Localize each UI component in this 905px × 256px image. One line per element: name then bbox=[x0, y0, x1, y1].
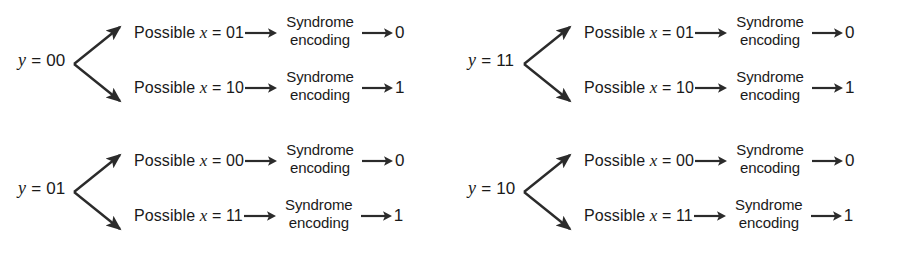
candidate-variable: x bbox=[200, 23, 208, 42]
source-value: = 11 bbox=[481, 51, 514, 70]
candidate-value: = 11 bbox=[662, 207, 693, 224]
source-value: = 01 bbox=[31, 179, 65, 198]
syndrome-encoding-stage: Syndrome encoding bbox=[728, 71, 812, 105]
candidate-value: = 10 bbox=[212, 79, 244, 96]
source-label-y-11: y = 11 bbox=[468, 50, 514, 71]
arrow-to-stage-icon bbox=[693, 209, 727, 223]
stage-label-line2: encoding bbox=[728, 160, 812, 175]
branch-fork-icon bbox=[70, 144, 132, 240]
source-value: = 10 bbox=[481, 179, 515, 198]
path-row-y01-upper: Possible x = 00 Syndrome encoding 0 bbox=[134, 144, 405, 178]
syndrome-encoding-stage: Syndrome encoding bbox=[728, 16, 812, 50]
output-digit: 1 bbox=[393, 206, 403, 226]
path-row-y00-lower: Possible x = 10 Syndrome encoding 1 bbox=[134, 71, 405, 105]
stage-label-line2: encoding bbox=[278, 32, 362, 47]
candidate-label: Possible x = 10 bbox=[584, 78, 694, 98]
source-label-y-00: y = 00 bbox=[18, 50, 66, 71]
stage-label-line2: encoding bbox=[727, 215, 811, 230]
candidate-variable: x bbox=[650, 78, 658, 97]
syndrome-encoding-stage: Syndrome encoding bbox=[278, 144, 362, 178]
arrow-to-output-icon bbox=[362, 26, 394, 40]
path-row-y00-upper: Possible x = 01 Syndrome encoding 0 bbox=[134, 16, 405, 50]
source-variable: y bbox=[18, 178, 26, 198]
decision-block-y-10: y = 10 Possible x = 00 Syndrome encoding… bbox=[452, 128, 897, 256]
output-digit: 1 bbox=[843, 206, 853, 226]
path-row-y10-upper: Possible x = 00 Syndrome encoding 0 bbox=[584, 144, 855, 178]
arrow-to-output-icon bbox=[811, 209, 843, 223]
stage-label-line1: Syndrome bbox=[278, 142, 362, 157]
path-row-y11-upper: Possible x = 01 Syndrome encoding 0 bbox=[584, 16, 855, 50]
arrow-to-stage-icon bbox=[243, 209, 277, 223]
syndrome-decoding-diagram: y = 00 Possible x = 01 Syndrome encoding bbox=[0, 0, 905, 256]
path-row-y11-lower: Possible x = 10 Syndrome encoding 1 bbox=[584, 71, 855, 105]
stage-label-line2: encoding bbox=[278, 87, 362, 102]
candidate-value: = 01 bbox=[212, 24, 244, 41]
decision-block-y-00: y = 00 Possible x = 01 Syndrome encoding bbox=[2, 0, 447, 128]
branch-fork-icon bbox=[520, 16, 582, 112]
candidate-value: = 10 bbox=[662, 79, 694, 96]
source-label-y-01: y = 01 bbox=[18, 178, 66, 199]
candidate-label: Possible x = 11 bbox=[584, 206, 693, 226]
candidate-label: Possible x = 00 bbox=[134, 151, 244, 171]
source-variable: y bbox=[18, 50, 26, 70]
stage-label-line1: Syndrome bbox=[277, 197, 361, 212]
candidate-variable: x bbox=[650, 23, 658, 42]
arrow-to-output-icon bbox=[362, 81, 394, 95]
candidate-label: Possible x = 00 bbox=[584, 151, 694, 171]
candidate-variable: x bbox=[200, 151, 208, 170]
arrow-to-stage-icon bbox=[694, 26, 728, 40]
path-row-y01-lower: Possible x = 11 Syndrome encoding 1 bbox=[134, 199, 403, 233]
syndrome-encoding-stage: Syndrome encoding bbox=[727, 199, 811, 233]
source-variable: y bbox=[468, 50, 476, 70]
arrow-to-output-icon bbox=[361, 209, 393, 223]
arrow-to-stage-icon bbox=[694, 81, 728, 95]
syndrome-encoding-stage: Syndrome encoding bbox=[277, 199, 361, 233]
candidate-value: = 01 bbox=[662, 24, 694, 41]
output-digit: 0 bbox=[394, 151, 404, 171]
source-variable: y bbox=[468, 178, 476, 198]
output-digit: 0 bbox=[844, 151, 854, 171]
candidate-variable: x bbox=[200, 206, 208, 225]
stage-label-line2: encoding bbox=[277, 215, 361, 230]
candidate-value: = 11 bbox=[212, 207, 243, 224]
output-digit: 0 bbox=[844, 23, 854, 43]
candidate-value: = 00 bbox=[662, 152, 694, 169]
decision-block-y-11: y = 11 Possible x = 01 Syndrome encoding… bbox=[452, 0, 897, 128]
candidate-label: Possible x = 11 bbox=[134, 206, 243, 226]
arrow-to-output-icon bbox=[362, 154, 394, 168]
output-digit: 1 bbox=[844, 78, 854, 98]
candidate-value: = 00 bbox=[212, 152, 244, 169]
source-label-y-10: y = 10 bbox=[468, 178, 516, 199]
stage-label-line1: Syndrome bbox=[728, 14, 812, 29]
stage-label-line1: Syndrome bbox=[278, 14, 362, 29]
syndrome-encoding-stage: Syndrome encoding bbox=[728, 144, 812, 178]
stage-label-line2: encoding bbox=[278, 160, 362, 175]
syndrome-encoding-stage: Syndrome encoding bbox=[278, 71, 362, 105]
candidate-variable: x bbox=[650, 151, 658, 170]
candidate-label: Possible x = 01 bbox=[584, 23, 694, 43]
arrow-to-output-icon bbox=[812, 26, 844, 40]
arrow-to-stage-icon bbox=[244, 154, 278, 168]
stage-label-line1: Syndrome bbox=[278, 69, 362, 84]
candidate-variable: x bbox=[200, 78, 208, 97]
output-digit: 1 bbox=[394, 78, 404, 98]
arrow-to-stage-icon bbox=[244, 81, 278, 95]
stage-label-line1: Syndrome bbox=[727, 197, 811, 212]
candidate-label: Possible x = 10 bbox=[134, 78, 244, 98]
arrow-to-stage-icon bbox=[694, 154, 728, 168]
branch-fork-icon bbox=[70, 16, 132, 112]
candidate-variable: x bbox=[650, 206, 658, 225]
path-row-y10-lower: Possible x = 11 Syndrome encoding 1 bbox=[584, 199, 853, 233]
stage-label-line2: encoding bbox=[728, 87, 812, 102]
decision-block-y-01: y = 01 Possible x = 00 Syndrome encoding… bbox=[2, 128, 447, 256]
arrow-to-output-icon bbox=[812, 81, 844, 95]
source-value: = 00 bbox=[31, 51, 65, 70]
stage-label-line1: Syndrome bbox=[728, 69, 812, 84]
branch-fork-icon bbox=[520, 144, 582, 240]
output-digit: 0 bbox=[394, 23, 404, 43]
arrow-to-stage-icon bbox=[244, 26, 278, 40]
candidate-label: Possible x = 01 bbox=[134, 23, 244, 43]
arrow-to-output-icon bbox=[812, 154, 844, 168]
syndrome-encoding-stage: Syndrome encoding bbox=[278, 16, 362, 50]
stage-label-line2: encoding bbox=[728, 32, 812, 47]
